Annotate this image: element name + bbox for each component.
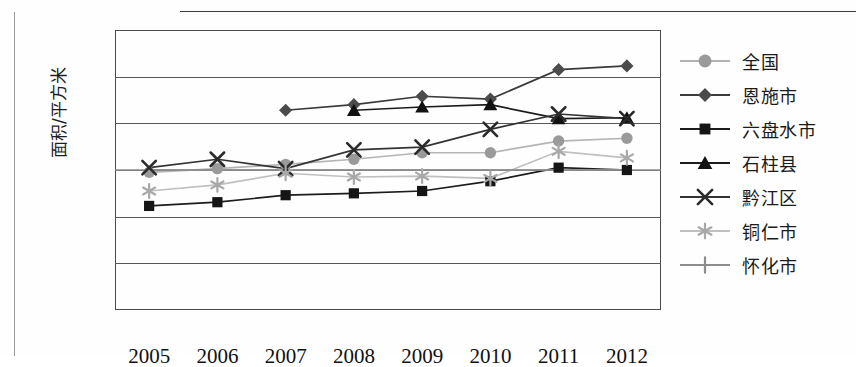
x-tick-label: 2009 <box>387 344 457 367</box>
data-point-circle <box>485 147 496 158</box>
x-tick-label: 2005 <box>114 344 184 367</box>
legend-label: 全国 <box>734 48 779 74</box>
data-point-x <box>484 123 497 136</box>
x-tick-label: 2007 <box>251 344 321 367</box>
data-point-square <box>554 163 564 173</box>
data-point-square <box>700 124 711 135</box>
legend-marker-diamond-icon <box>676 83 734 107</box>
x-tick-label: 2006 <box>182 344 252 367</box>
series-line <box>286 66 627 110</box>
legend-label: 六盘水市 <box>734 116 816 142</box>
legend-label: 铜仁市 <box>734 218 798 244</box>
data-point-square <box>622 165 632 175</box>
legend-marker-asterisk-icon <box>676 219 734 243</box>
legend-item-石柱县[interactable]: 石柱县 <box>676 146 854 180</box>
legend-label: 黔江区 <box>734 184 798 210</box>
legend-item-铜仁市[interactable]: 铜仁市 <box>676 214 854 248</box>
legend-label: 石柱县 <box>734 150 798 176</box>
x-tick-label: 2011 <box>524 344 594 367</box>
series-lines <box>115 30 661 310</box>
legend-marker-x-icon <box>676 185 734 209</box>
legend-item-全国[interactable]: 全国 <box>676 44 854 78</box>
data-point-diamond <box>698 88 712 102</box>
x-tick-label: 2012 <box>592 344 662 367</box>
plot-canvas: 0102030405060 20052006200720082009201020… <box>115 30 661 310</box>
data-point-square <box>349 188 359 198</box>
legend-item-怀化市[interactable]: 怀化市 <box>676 248 854 282</box>
data-point-square <box>144 201 154 211</box>
legend-item-恩施市[interactable]: 恩施市 <box>676 78 854 112</box>
legend-marker-triangle-icon <box>676 151 734 175</box>
data-point-plus <box>697 257 713 273</box>
x-tick-label: 2010 <box>455 344 525 367</box>
data-point-square <box>212 197 222 207</box>
legend-marker-plus-icon <box>676 253 734 277</box>
data-point-square <box>417 186 427 196</box>
data-point-diamond <box>620 59 633 72</box>
legend-label: 怀化市 <box>734 252 798 278</box>
data-point-square <box>281 190 291 200</box>
data-point-diamond <box>279 104 292 117</box>
chart-legend: 全国恩施市六盘水市石柱县黔江区铜仁市怀化市 <box>676 44 854 282</box>
legend-marker-square-icon <box>676 117 734 141</box>
data-point-circle <box>621 133 632 144</box>
data-point-circle <box>699 55 712 68</box>
legend-marker-circle-icon <box>676 49 734 73</box>
x-tick-label: 2008 <box>319 344 389 367</box>
legend-item-黔江区[interactable]: 黔江区 <box>676 180 854 214</box>
data-point-diamond <box>552 63 565 76</box>
legend-label: 恩施市 <box>734 82 798 108</box>
legend-item-六盘水市[interactable]: 六盘水市 <box>676 112 854 146</box>
